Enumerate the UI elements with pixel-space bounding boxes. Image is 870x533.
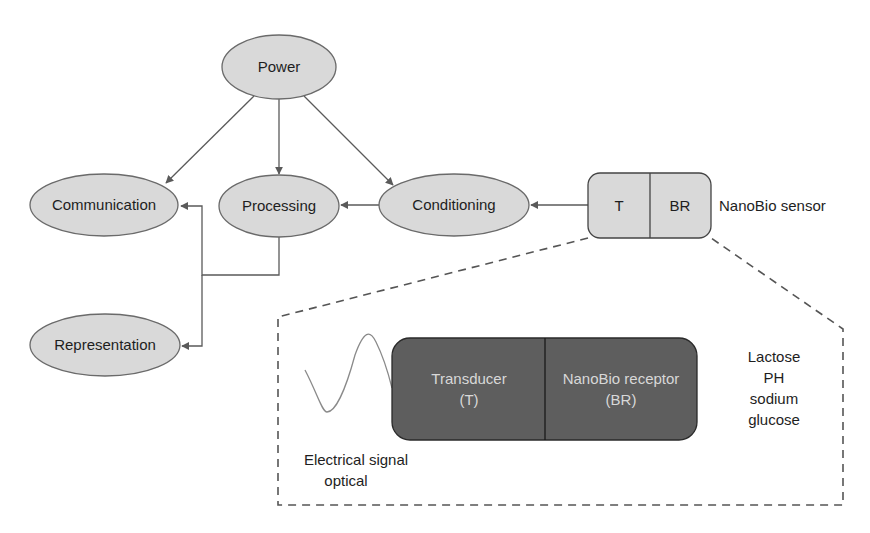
node-conditioning: Conditioning <box>379 174 529 236</box>
node-processing: Processing <box>219 175 339 237</box>
sensor-br-label: BR <box>670 197 691 214</box>
edge-power-to-communication <box>166 96 254 183</box>
edge-power-to-conditioning <box>304 96 393 185</box>
transducer-label: Transducer <box>431 370 506 387</box>
node-power: Power <box>222 35 336 99</box>
receptor-abbrev: (BR) <box>606 391 637 408</box>
edge-processing-to-representation <box>182 275 202 346</box>
receptor-label: NanoBio receptor <box>563 370 680 387</box>
node-power-label: Power <box>258 58 301 75</box>
analyte-glucose: glucose <box>748 411 800 428</box>
node-processing-label: Processing <box>242 197 316 214</box>
node-representation: Representation <box>30 314 180 376</box>
analyte-sodium: sodium <box>750 390 798 407</box>
node-communication: Communication <box>30 174 178 236</box>
transducer-abbrev: (T) <box>459 391 478 408</box>
detail-view: Transducer (T) NanoBio receptor (BR) Lac… <box>304 334 800 489</box>
nanobio-sensor-system-diagram: Power Communication Processing Condition… <box>0 0 870 533</box>
node-conditioning-label: Conditioning <box>412 196 495 213</box>
signal-type: optical <box>324 472 367 489</box>
sensor-caption: NanoBio sensor <box>719 197 826 214</box>
nanobio-sensor: T BR NanoBio sensor <box>588 173 826 238</box>
signal-wave-icon <box>305 334 392 412</box>
analyte-ph: PH <box>764 369 785 386</box>
sensor-t-label: T <box>614 197 623 214</box>
node-communication-label: Communication <box>52 196 156 213</box>
node-representation-label: Representation <box>54 336 156 353</box>
signal-label: Electrical signal <box>304 451 408 468</box>
analyte-lactose: Lactose <box>748 348 801 365</box>
